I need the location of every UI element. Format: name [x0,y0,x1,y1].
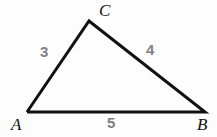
side-length-label-cb: 4 [146,42,154,57]
vertex-label-b: B [197,116,207,133]
triangle-figure: C A B 3 4 5 [0,0,217,137]
triangle-outline-path [27,21,205,112]
vertex-label-c: C [99,2,110,19]
side-length-label-ac: 3 [40,44,48,59]
vertex-label-a: A [11,116,21,133]
side-length-label-ab: 5 [107,115,115,130]
